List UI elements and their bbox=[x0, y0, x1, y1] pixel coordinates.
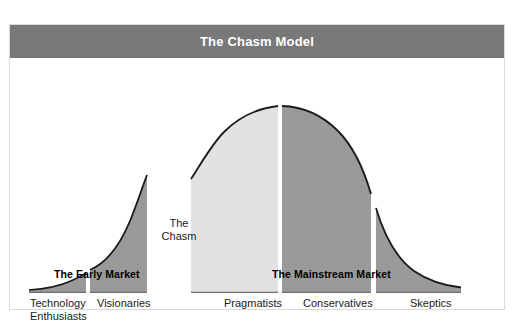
segment-pragmatists bbox=[191, 106, 278, 292]
axis-label-visionaries: Visionaries bbox=[97, 297, 151, 310]
chasm-model-figure: The Chasm Model bbox=[9, 24, 505, 310]
axis-label-skeptics: Skeptics bbox=[410, 297, 452, 310]
axis-label-pragmatists: Pragmatists bbox=[224, 297, 282, 310]
figure-title-bar: The Chasm Model bbox=[10, 25, 504, 58]
axis-label-technology-enthusiasts: Technology Enthusiasts bbox=[30, 297, 87, 322]
mainstream-market-annotation: The Mainstream Market bbox=[272, 268, 391, 280]
segment-fill-conservatives bbox=[282, 106, 371, 292]
segment-conservatives bbox=[282, 106, 371, 292]
page-title: The Chasm Model bbox=[200, 34, 314, 49]
axis-label-conservatives: Conservatives bbox=[303, 297, 373, 310]
early-market-annotation: The Early Market bbox=[54, 268, 140, 280]
chasm-annotation: The Chasm bbox=[160, 217, 198, 243]
segment-fill-pragmatists bbox=[191, 106, 278, 292]
